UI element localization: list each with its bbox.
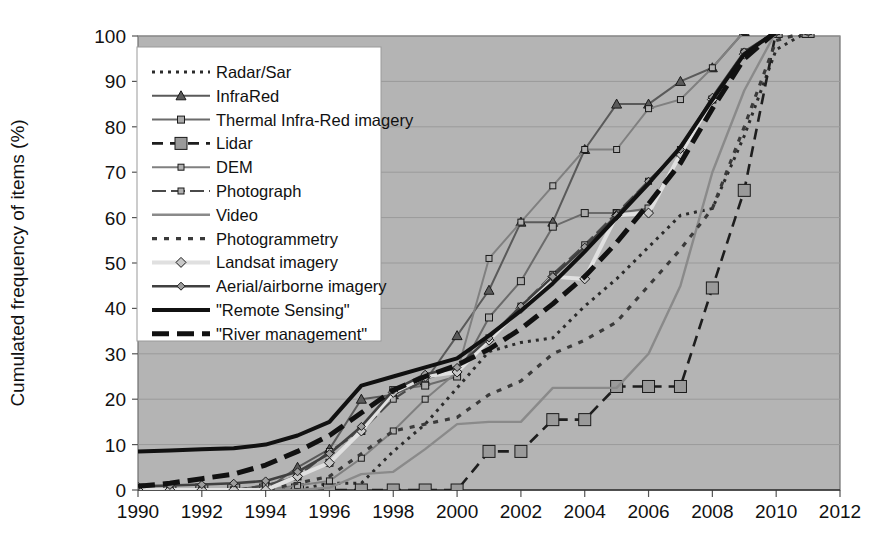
data-point-marker — [178, 188, 184, 194]
y-tick-label: 40 — [105, 298, 126, 319]
y-tick-label: 70 — [105, 162, 126, 183]
y-axis-title: Cumulated frequency of items (%) — [7, 119, 28, 406]
data-point-marker — [805, 28, 811, 34]
data-point-marker — [518, 219, 524, 225]
data-point-marker — [773, 28, 780, 35]
data-point-marker — [646, 106, 652, 112]
legend-item-label: Thermal Infra-Red imagery — [216, 111, 414, 129]
data-point-marker — [486, 314, 493, 321]
data-point-marker — [175, 137, 187, 149]
x-tick-label: 2002 — [500, 501, 542, 522]
data-point-marker — [178, 116, 185, 123]
x-tick-label: 1994 — [244, 501, 287, 522]
legend-item-label: Photogrammetry — [216, 230, 339, 248]
legend-item-label: DEM — [216, 158, 253, 176]
data-point-marker — [579, 414, 591, 426]
y-tick-label: 80 — [105, 117, 126, 138]
x-tick-label: 2004 — [564, 501, 607, 522]
x-tick-label: 1996 — [308, 501, 350, 522]
y-tick-label: 100 — [94, 26, 126, 47]
legend-item-label: Aerial/airborne imagery — [216, 277, 387, 295]
y-tick-label: 20 — [105, 389, 126, 410]
data-point-marker — [517, 278, 524, 285]
legend-item-label: "River management" — [216, 325, 367, 343]
data-point-marker — [419, 484, 431, 496]
data-point-marker — [773, 28, 779, 34]
data-point-marker — [515, 445, 527, 457]
data-point-marker — [486, 255, 492, 261]
data-point-marker — [422, 396, 428, 402]
legend-item-label: Landsat imagery — [216, 253, 339, 271]
data-point-marker — [483, 445, 495, 457]
legend-item-label: Lidar — [216, 134, 253, 152]
data-point-marker — [582, 147, 588, 153]
data-point-marker — [706, 282, 718, 294]
y-tick-label: 50 — [105, 253, 126, 274]
y-tick-labels-group: 0102030405060708090100 — [94, 26, 126, 501]
data-point-marker — [547, 414, 559, 426]
chart-legend: Radar/SarInfraRedThermal Infra-Red image… — [137, 47, 414, 343]
y-tick-label: 90 — [105, 71, 126, 92]
data-point-marker — [614, 147, 620, 153]
legend-item-label: InfraRed — [216, 87, 279, 105]
x-tick-label: 1990 — [117, 501, 159, 522]
data-point-marker — [741, 28, 747, 34]
data-point-marker — [581, 210, 588, 217]
data-point-marker — [549, 223, 556, 230]
y-tick-label: 0 — [115, 480, 126, 501]
data-point-marker — [709, 65, 715, 71]
y-tick-label: 30 — [105, 344, 126, 365]
y-tick-label: 10 — [105, 435, 126, 456]
legend-item-label: Radar/Sar — [216, 63, 292, 81]
data-point-marker — [643, 380, 655, 392]
y-axis-title-group: Cumulated frequency of items (%) — [7, 119, 28, 406]
x-tick-label: 2006 — [627, 501, 669, 522]
data-point-marker — [805, 28, 812, 35]
x-tick-labels-group: 1990199219941996199820002002200420062008… — [117, 501, 861, 522]
x-tick-label: 1992 — [181, 501, 223, 522]
x-tick-marks-group — [138, 490, 840, 497]
cumulated-frequency-line-chart: 0102030405060708090100 19901992199419961… — [0, 0, 887, 548]
data-point-marker — [178, 164, 184, 170]
data-point-marker — [550, 183, 556, 189]
data-point-marker — [677, 97, 683, 103]
x-tick-label: 2010 — [755, 501, 797, 522]
x-tick-label: 2008 — [691, 501, 733, 522]
legend-item-label: Photograph — [216, 182, 301, 200]
data-point-marker — [674, 380, 686, 392]
data-point-marker — [326, 478, 332, 484]
x-tick-label: 1998 — [372, 501, 414, 522]
data-point-marker — [738, 184, 750, 196]
chart-figure: 0102030405060708090100 19901992199419961… — [0, 0, 887, 548]
data-point-marker — [773, 28, 779, 34]
legend-item-label: "Remote Sensing" — [216, 301, 350, 319]
data-point-marker — [355, 484, 367, 496]
x-tick-label: 2012 — [819, 501, 861, 522]
x-tick-label: 2000 — [436, 501, 478, 522]
data-point-marker — [805, 28, 811, 34]
legend-item-label: Video — [216, 206, 258, 224]
data-point-marker — [422, 382, 429, 389]
y-tick-label: 60 — [105, 208, 126, 229]
